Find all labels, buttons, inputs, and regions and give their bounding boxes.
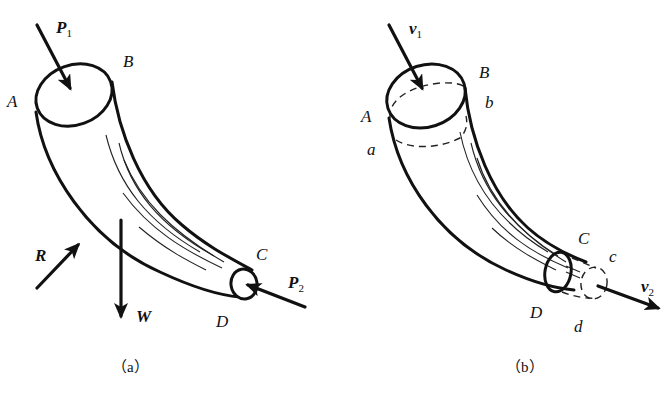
- section-ab: [378, 54, 473, 138]
- cd-connector-bottom: [562, 292, 598, 298]
- label-d: D: [215, 312, 229, 331]
- label-p2: P2: [287, 273, 304, 294]
- section-ab-dashed: [390, 83, 465, 118]
- label-v2: v2: [641, 277, 654, 298]
- label-a: A: [6, 92, 18, 111]
- section-ab: [27, 53, 121, 136]
- tube-left-edge: [36, 112, 240, 297]
- label-c: C: [256, 245, 268, 264]
- label-a-upper: A: [360, 107, 372, 126]
- section-ab-dashed-lower: [396, 116, 467, 147]
- label-d-upper: D: [529, 303, 543, 322]
- label-d-lower: d: [574, 317, 583, 336]
- tube-right-edge: [112, 82, 252, 270]
- label-p1: P1: [55, 18, 72, 39]
- label-r: R: [34, 246, 46, 265]
- caption-a: （a）: [112, 359, 149, 375]
- stream-tube-figure: P1 B A R W C D P2 （a）: [0, 0, 672, 393]
- label-a-lower: a: [367, 140, 376, 159]
- label-b: B: [123, 52, 134, 71]
- panel-a: P1 B A R W C D P2 （a）: [6, 18, 305, 375]
- label-c-upper: C: [578, 229, 590, 248]
- section-cd-dashed: [578, 265, 609, 301]
- label-v1: v1: [409, 19, 422, 40]
- panel-b: v1 B b A a C c v2 D d （b）: [360, 19, 658, 375]
- label-w: W: [136, 307, 153, 326]
- caption-b: （b）: [506, 359, 544, 375]
- label-b-lower: b: [485, 93, 494, 112]
- cd-connector-top: [572, 258, 596, 268]
- label-c-lower: c: [609, 247, 617, 266]
- label-b-upper: B: [479, 63, 490, 82]
